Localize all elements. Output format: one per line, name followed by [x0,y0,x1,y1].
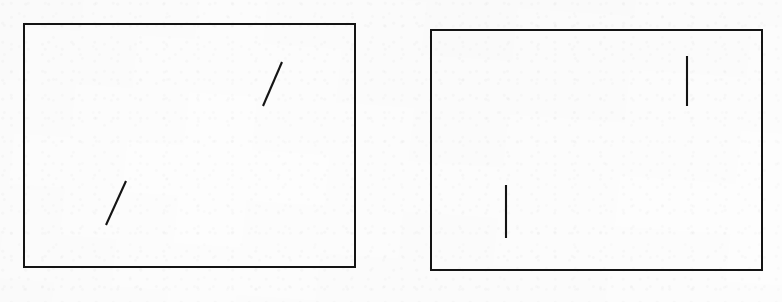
panel-right-line-canvas [430,29,763,271]
figure-root: Two-panel line orientation stimulus [0,0,782,302]
left-panel-upper-segment [263,62,282,106]
left-panel-lower-segment [106,181,126,225]
stimulus-panel-right [430,29,763,271]
stimulus-panel-left [23,23,356,268]
figure-title: Two-panel line orientation stimulus [0,21,1,22]
panel-left-line-canvas [23,23,356,268]
